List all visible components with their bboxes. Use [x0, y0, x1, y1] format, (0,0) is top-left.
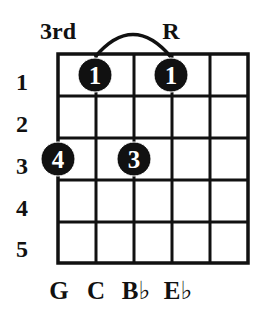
- finger-dot: 1: [154, 58, 188, 92]
- fret-number: 5: [16, 236, 28, 262]
- string-label-g: G: [49, 277, 68, 304]
- finger-number: 1: [165, 62, 178, 89]
- string-label-e-flat: E♭: [164, 277, 192, 304]
- finger-dot: 3: [117, 142, 151, 176]
- string-label-b-flat: B♭: [122, 277, 150, 304]
- finger-number: 3: [128, 146, 141, 173]
- fret-number: 3: [16, 153, 28, 179]
- fret-numbers: 1 2 3 4 5: [16, 69, 28, 262]
- finger-number: 4: [52, 146, 65, 173]
- chord-diagram: 3rd R 1 2 3 4 5 1 1 4 3 G C: [0, 0, 263, 315]
- string-label-c: C: [87, 277, 105, 304]
- finger-number: 1: [89, 62, 102, 89]
- fret-number: 4: [16, 195, 28, 221]
- third-label: 3rd: [40, 18, 77, 44]
- finger-dot: 1: [78, 58, 112, 92]
- root-label: R: [162, 18, 180, 44]
- fret-number: 2: [16, 111, 28, 137]
- finger-dot: 4: [41, 142, 75, 176]
- fret-number: 1: [16, 69, 28, 95]
- string-labels: G C B♭ E♭: [49, 277, 192, 304]
